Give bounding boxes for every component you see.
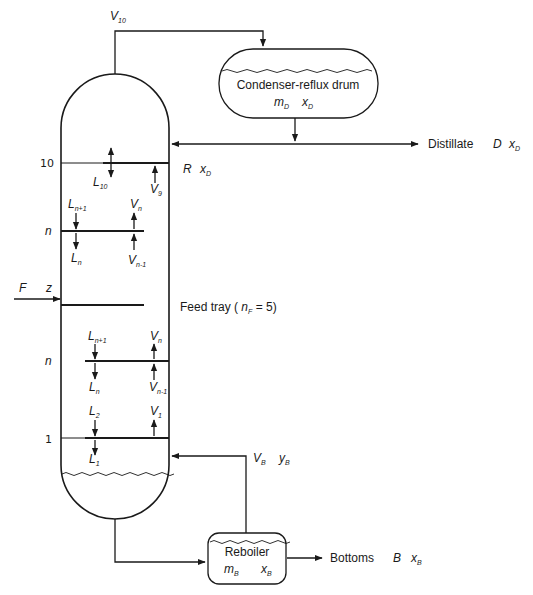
- reflux-composition: xD: [199, 162, 211, 177]
- distillate-label: Distillate: [428, 137, 474, 151]
- tray-n-rect-number: n: [45, 224, 52, 238]
- top-vapor-line: [115, 31, 263, 74]
- reflux-flow: R: [183, 162, 192, 176]
- feed-tray-label: Feed tray ( nF = 5): [180, 300, 277, 315]
- label-Ln-rect: Ln: [71, 251, 82, 266]
- condenser-holdup: mD: [274, 95, 289, 110]
- distillation-diagram: V10 Condenser-reflux drum mD xD Distilla…: [0, 0, 533, 595]
- tray-1-number: 1: [45, 433, 52, 446]
- distillate-flow: D: [493, 137, 502, 151]
- reboiler-composition: xB: [260, 562, 272, 577]
- label-L1: L1: [89, 452, 100, 467]
- label-Vn-strip: Vn: [150, 329, 162, 344]
- condenser-liquid-level: [222, 70, 372, 73]
- tray-10-number: 10: [40, 157, 54, 170]
- reboiler-liquid-level: [210, 541, 290, 544]
- distillate-composition: xD: [508, 137, 520, 152]
- column-bottoms-line: [115, 519, 205, 562]
- boilup-line: [172, 456, 246, 533]
- label-Ln1-strip: Ln+1: [88, 329, 107, 344]
- boilup-flow: VB: [253, 451, 266, 466]
- column-shell: [61, 74, 169, 519]
- label-Vn1-strip: Vn-1: [149, 380, 167, 395]
- label-L2: L2: [89, 404, 100, 419]
- feed-composition: z: [45, 281, 52, 295]
- bottoms-label: Bottoms: [330, 551, 374, 565]
- column-liquid-level: [62, 473, 174, 476]
- feed-flow: F: [19, 281, 27, 295]
- label-L10: L10: [93, 175, 108, 190]
- condenser-composition: xD: [301, 95, 313, 110]
- label-V10: V10: [110, 9, 126, 24]
- bottoms-composition: xB: [410, 551, 422, 566]
- reboiler-holdup: mB: [224, 562, 239, 577]
- label-V9: V9: [150, 182, 162, 197]
- condenser-label: Condenser-reflux drum: [237, 78, 360, 92]
- tray-n-strip-number: n: [45, 354, 52, 368]
- label-Vn1-rect: Vn-1: [128, 253, 146, 268]
- label-Ln1-rect: Ln+1: [68, 197, 87, 212]
- boilup-composition: yB: [278, 451, 290, 466]
- reboiler-label: Reboiler: [225, 545, 270, 559]
- bottoms-flow: B: [393, 551, 401, 565]
- label-V1: V1: [150, 404, 162, 419]
- label-Ln-strip: Ln: [89, 380, 100, 395]
- label-Vn-rect: Vn: [130, 197, 142, 212]
